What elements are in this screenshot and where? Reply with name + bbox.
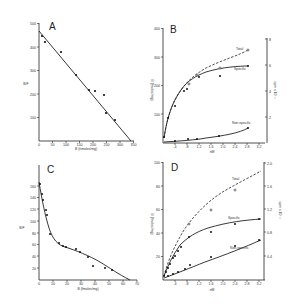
c-y-ticks: 160 140 120 100 80 60 40 20 bbox=[30, 185, 39, 271]
a-fit-line bbox=[39, 31, 131, 141]
d-panel-label: D bbox=[171, 162, 178, 173]
svg-text:1.2: 1.2 bbox=[197, 145, 202, 149]
d-x-ticks: .4 .8 1.2 1.6 2.0 2.4 2.8 3.2 bbox=[174, 280, 262, 286]
d-y-ticks: 100 80 60 40 20 bbox=[154, 161, 163, 259]
b-y2-ticks: 8 6 4 2 bbox=[265, 38, 271, 120]
svg-text:2.4: 2.4 bbox=[233, 145, 238, 149]
b-points bbox=[163, 49, 249, 142]
svg-text:40: 40 bbox=[32, 255, 36, 259]
svg-text:0: 0 bbox=[38, 282, 40, 286]
a-panel-label: A bbox=[49, 21, 56, 32]
svg-text:6: 6 bbox=[269, 64, 271, 68]
svg-text:.8: .8 bbox=[186, 282, 189, 286]
svg-text:1.6: 1.6 bbox=[209, 282, 214, 286]
svg-text:.8: .8 bbox=[186, 145, 189, 149]
svg-text:1.2: 1.2 bbox=[197, 282, 202, 286]
svg-text:.4: .4 bbox=[174, 282, 177, 286]
panel-d: 100 80 60 40 20 2.0 1.6 1.2 0.8 0.4 .4 .… bbox=[150, 161, 282, 292]
svg-text:300: 300 bbox=[154, 56, 160, 60]
d-total-label: Total bbox=[232, 177, 239, 181]
d-y-label: B (fmoles/mg) bbox=[150, 213, 154, 234]
c-panel-label: C bbox=[47, 164, 54, 175]
svg-text:0.8: 0.8 bbox=[267, 231, 272, 235]
svg-text:200: 200 bbox=[30, 93, 36, 97]
b-specific-curve bbox=[164, 66, 248, 138]
svg-text:2.0: 2.0 bbox=[267, 162, 272, 166]
svg-text:2.8: 2.8 bbox=[245, 145, 250, 149]
panel-b: 400 300 200 100 8 6 4 2 .4 .8 1.2 1.6 2.… bbox=[150, 24, 277, 154]
svg-text:400: 400 bbox=[30, 46, 36, 50]
c-y-label: B/F bbox=[19, 226, 24, 230]
svg-text:300: 300 bbox=[117, 143, 123, 147]
svg-text:60: 60 bbox=[121, 282, 125, 286]
b-y-label: B (fmoles/mg) bbox=[150, 79, 154, 100]
svg-text:120: 120 bbox=[30, 208, 36, 212]
svg-text:20: 20 bbox=[156, 255, 160, 259]
svg-text:2.0: 2.0 bbox=[221, 145, 226, 149]
svg-text:1.6: 1.6 bbox=[209, 145, 214, 149]
b-y2-label: cpm x 10⁻³ bbox=[273, 82, 277, 100]
d-x-label: nM bbox=[210, 288, 215, 292]
svg-text:2.4: 2.4 bbox=[233, 282, 238, 286]
svg-text:30: 30 bbox=[79, 282, 83, 286]
svg-text:100: 100 bbox=[154, 161, 160, 165]
b-nonspecific-label: Non-specific bbox=[232, 121, 251, 125]
svg-text:20: 20 bbox=[32, 267, 36, 271]
figure-canvas: 500 400 300 200 100 0 50 100 150 200 250… bbox=[0, 0, 296, 304]
svg-text:60: 60 bbox=[32, 243, 36, 247]
svg-text:2.8: 2.8 bbox=[245, 282, 250, 286]
a-x-label: B (nmoles/mg) bbox=[75, 147, 97, 151]
a-y-label: B/F bbox=[23, 82, 28, 86]
svg-text:20: 20 bbox=[65, 282, 69, 286]
svg-text:160: 160 bbox=[30, 185, 36, 189]
b-panel-label: B bbox=[170, 24, 177, 35]
svg-text:500: 500 bbox=[30, 22, 36, 26]
svg-text:100: 100 bbox=[63, 143, 69, 147]
d-y2-label: cpm x 10⁻³ bbox=[278, 202, 282, 220]
d-specific-label: Specific bbox=[228, 216, 240, 220]
svg-text:100: 100 bbox=[154, 113, 160, 117]
panel-c: 160 140 120 100 80 60 40 20 0 10 20 30 4… bbox=[19, 164, 139, 291]
svg-text:80: 80 bbox=[156, 185, 160, 189]
svg-text:2.0: 2.0 bbox=[221, 282, 226, 286]
svg-text:40: 40 bbox=[156, 232, 160, 236]
svg-text:50: 50 bbox=[107, 282, 111, 286]
svg-text:140: 140 bbox=[30, 196, 36, 200]
b-y-ticks: 400 300 200 100 bbox=[154, 27, 163, 117]
svg-text:3.2: 3.2 bbox=[257, 282, 262, 286]
svg-text:0: 0 bbox=[38, 143, 40, 147]
svg-text:10: 10 bbox=[51, 282, 55, 286]
svg-text:40: 40 bbox=[93, 282, 97, 286]
a-y-ticks: 500 400 300 200 100 bbox=[30, 22, 39, 120]
c-x-ticks: 0 10 20 30 40 50 60 70 bbox=[38, 280, 139, 286]
d-total-curve bbox=[164, 171, 261, 276]
d-nonspecific-label: Non-specific bbox=[230, 246, 249, 250]
svg-text:8: 8 bbox=[269, 38, 271, 42]
svg-text:100: 100 bbox=[30, 220, 36, 224]
svg-text:60: 60 bbox=[156, 208, 160, 212]
d-y2-ticks: 2.0 1.6 1.2 0.8 0.4 bbox=[264, 162, 272, 259]
svg-text:70: 70 bbox=[135, 282, 139, 286]
svg-text:300: 300 bbox=[30, 69, 36, 73]
svg-text:3.2: 3.2 bbox=[257, 145, 262, 149]
svg-text:50: 50 bbox=[51, 143, 55, 147]
svg-text:0.4: 0.4 bbox=[267, 255, 272, 259]
svg-text:.4: .4 bbox=[174, 145, 177, 149]
b-x-ticks: .4 .8 1.2 1.6 2.0 2.4 2.8 3.2 bbox=[174, 143, 262, 149]
svg-text:80: 80 bbox=[32, 232, 36, 236]
b-x-label: nM bbox=[210, 150, 215, 154]
svg-text:400: 400 bbox=[154, 27, 160, 31]
svg-text:1.6: 1.6 bbox=[267, 185, 272, 189]
svg-text:1.2: 1.2 bbox=[267, 208, 272, 212]
d-points bbox=[163, 189, 260, 277]
svg-text:350: 350 bbox=[131, 143, 137, 147]
c-fit-curve bbox=[39, 182, 130, 280]
b-specific-label: Specific bbox=[234, 67, 246, 71]
panel-a: 500 400 300 200 100 0 50 100 150 200 250… bbox=[23, 21, 136, 151]
b-total-label: Total bbox=[236, 47, 243, 51]
c-x-label: B (fmoles/mg) bbox=[77, 287, 98, 291]
b-nonspecific-curve bbox=[164, 128, 248, 142]
svg-text:100: 100 bbox=[30, 116, 36, 120]
svg-text:2: 2 bbox=[269, 116, 271, 120]
svg-text:250: 250 bbox=[104, 143, 110, 147]
